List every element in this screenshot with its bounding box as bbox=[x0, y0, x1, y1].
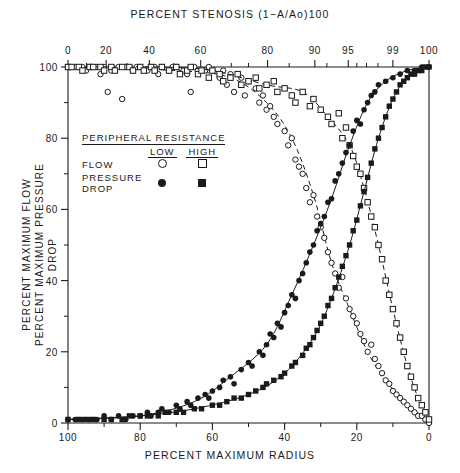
data-point bbox=[343, 296, 348, 301]
data-point bbox=[221, 79, 226, 84]
data-point bbox=[405, 363, 410, 368]
data-point bbox=[314, 328, 319, 333]
data-point bbox=[145, 413, 150, 418]
data-point bbox=[347, 306, 352, 311]
data-point bbox=[369, 342, 374, 347]
data-point bbox=[311, 242, 317, 248]
x-tick-100: 100 bbox=[59, 432, 78, 443]
data-point bbox=[76, 417, 81, 422]
data-point bbox=[293, 100, 298, 105]
data-point bbox=[289, 136, 294, 141]
data-point bbox=[369, 214, 374, 219]
data-point bbox=[311, 192, 316, 197]
data-point bbox=[105, 89, 110, 94]
data-point bbox=[267, 103, 272, 108]
data-point bbox=[350, 128, 356, 134]
data-point bbox=[199, 68, 204, 73]
data-point bbox=[271, 114, 276, 119]
data-point bbox=[387, 292, 392, 297]
open-circle-icon bbox=[158, 159, 167, 168]
data-point bbox=[329, 260, 334, 265]
data-point bbox=[101, 417, 106, 422]
data-point bbox=[354, 217, 359, 222]
y-tick-0: 0 bbox=[0, 418, 58, 429]
data-point bbox=[336, 171, 342, 177]
data-point bbox=[231, 89, 236, 94]
data-point bbox=[372, 146, 377, 151]
legend-symbol-flow-low bbox=[142, 158, 182, 171]
data-point bbox=[286, 143, 291, 148]
data-point bbox=[365, 100, 371, 106]
data-point bbox=[365, 200, 370, 205]
data-point bbox=[376, 242, 381, 247]
plot-svg bbox=[0, 0, 460, 473]
data-point bbox=[325, 249, 330, 254]
data-point bbox=[383, 78, 389, 84]
data-point bbox=[293, 157, 298, 162]
x-tick-80: 80 bbox=[134, 432, 146, 443]
data-point bbox=[372, 225, 377, 230]
legend-title: PERIPHERAL RESISTANCE bbox=[82, 132, 225, 145]
data-point bbox=[307, 103, 312, 108]
data-point bbox=[249, 363, 255, 369]
data-point bbox=[379, 370, 384, 375]
data-point bbox=[246, 79, 251, 84]
legend-symbol-pd-low bbox=[142, 171, 182, 195]
top-tick-0: 0 bbox=[65, 45, 71, 56]
data-point bbox=[358, 171, 363, 176]
data-point bbox=[188, 89, 193, 94]
data-point bbox=[318, 321, 323, 326]
data-point bbox=[231, 395, 236, 400]
data-point bbox=[65, 417, 70, 422]
data-point bbox=[264, 381, 269, 386]
data-point bbox=[307, 249, 313, 255]
data-point bbox=[257, 100, 262, 105]
top-tick-40: 40 bbox=[143, 45, 155, 56]
data-point bbox=[340, 136, 345, 141]
data-point bbox=[347, 143, 353, 149]
data-point bbox=[206, 395, 212, 401]
data-point bbox=[271, 378, 276, 383]
data-point bbox=[314, 214, 319, 219]
data-point bbox=[304, 185, 309, 190]
data-point bbox=[365, 349, 370, 354]
data-point bbox=[426, 417, 431, 422]
data-point bbox=[347, 242, 352, 247]
data-point bbox=[260, 93, 265, 98]
data-point bbox=[217, 403, 222, 408]
data-point bbox=[69, 64, 74, 69]
data-point bbox=[390, 306, 395, 311]
data-point bbox=[383, 114, 388, 119]
data-point bbox=[282, 86, 287, 91]
data-point bbox=[412, 385, 417, 390]
legend-label-flow: FLOW bbox=[82, 158, 142, 171]
data-point bbox=[415, 395, 420, 400]
data-point bbox=[210, 388, 216, 394]
data-point bbox=[300, 353, 305, 358]
data-point bbox=[224, 399, 229, 404]
data-point bbox=[369, 160, 374, 165]
data-point bbox=[379, 257, 384, 262]
data-point bbox=[332, 285, 337, 290]
data-point bbox=[282, 128, 287, 133]
legend-label-pressure-drop-line2: DROP bbox=[82, 183, 142, 194]
data-point bbox=[83, 417, 88, 422]
data-point bbox=[350, 153, 355, 158]
data-point bbox=[210, 403, 215, 408]
data-point bbox=[174, 410, 179, 415]
data-point bbox=[130, 68, 135, 73]
data-point bbox=[260, 353, 266, 359]
data-point bbox=[112, 68, 117, 73]
legend-label-pressure-drop: PRESSURE DROP bbox=[82, 171, 142, 195]
data-point bbox=[166, 68, 171, 73]
top-tick-60: 60 bbox=[195, 45, 207, 56]
data-point bbox=[361, 107, 367, 113]
data-point bbox=[394, 89, 399, 94]
data-point bbox=[350, 314, 355, 319]
data-point bbox=[239, 82, 244, 87]
data-point bbox=[127, 413, 132, 418]
data-point bbox=[379, 125, 384, 130]
data-point bbox=[293, 296, 299, 302]
data-point bbox=[257, 86, 262, 91]
data-point bbox=[275, 121, 280, 126]
